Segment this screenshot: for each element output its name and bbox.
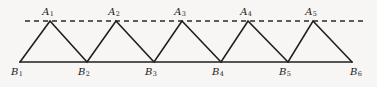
base-label-b5: B5 [279, 67, 291, 78]
geometry-figure: A1 A2 A3 A4 A5 B1 B2 B3 B4 B5 B6 [0, 0, 377, 87]
apex-label-a1-subscript: 1 [49, 10, 53, 18]
base-label-b5-subscript: 5 [286, 70, 290, 78]
apex-label-a5: A5 [305, 7, 317, 18]
base-label-b2: B2 [78, 67, 90, 78]
apex-label-a4-subscript: 4 [247, 10, 251, 18]
apex-label-a4: A4 [240, 7, 252, 18]
base-label-b4: B4 [212, 67, 224, 78]
base-label-b6-subscript: 6 [357, 70, 361, 78]
base-label-b3-subscript: 3 [152, 70, 156, 78]
base-label-b4-subscript: 4 [219, 70, 223, 78]
base-label-b1-subscript: 1 [18, 70, 22, 78]
figure-svg [0, 0, 377, 87]
base-label-b6: B6 [350, 67, 362, 78]
apex-label-a2-subscript: 2 [115, 10, 119, 18]
base-label-b1: B1 [11, 67, 23, 78]
base-label-b3: B3 [145, 67, 157, 78]
apex-label-a1: A1 [42, 7, 54, 18]
apex-label-a3-subscript: 3 [181, 10, 185, 18]
apex-label-a3: A3 [174, 7, 186, 18]
apex-label-a2: A2 [108, 7, 120, 18]
base-label-b2-subscript: 2 [85, 70, 89, 78]
zigzag-path [20, 21, 352, 62]
apex-label-a5-subscript: 5 [312, 10, 316, 18]
